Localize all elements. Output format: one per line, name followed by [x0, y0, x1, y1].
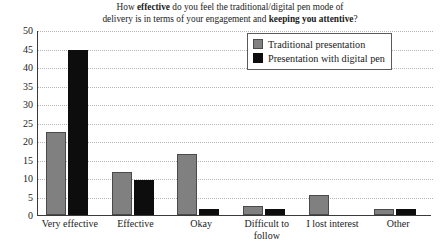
bar-group: [169, 31, 235, 215]
y-axis-tick-label: 10: [0, 174, 33, 184]
chart-title: How effective do you feel the traditiona…: [50, 2, 410, 25]
legend-swatch-traditional-icon: [253, 39, 263, 49]
bar-digital: [68, 50, 88, 215]
bar-digital: [199, 209, 219, 215]
bar-digital: [396, 209, 416, 215]
x-axis-tick-label: Effective: [103, 218, 169, 230]
x-axis-tick-label: Other: [365, 218, 431, 230]
y-axis-tick-label: 0: [0, 211, 33, 221]
bar-traditional: [112, 172, 132, 215]
legend-item-digital: Presentation with digital pen: [253, 51, 385, 65]
legend-item-traditional: Traditional presentation: [253, 37, 385, 51]
x-axis-labels: Very effectiveEffectiveOkayDifficult tof…: [37, 218, 431, 252]
title-text: delivery is in terms of your engagement …: [102, 14, 268, 24]
title-emphasis: effective: [137, 2, 170, 12]
y-axis-tick-label: 40: [0, 63, 33, 73]
y-axis-tick-label: 30: [0, 100, 33, 110]
title-text: do you feel the traditional/digital pen …: [170, 2, 344, 12]
legend-swatch-digital-icon: [253, 53, 263, 63]
y-axis-tick-label: 45: [0, 45, 33, 55]
y-axis-tick-label: 50: [0, 26, 33, 36]
bar-digital: [265, 209, 285, 215]
y-axis-tick-label: 15: [0, 156, 33, 166]
bar-digital: [134, 180, 154, 215]
chart-title-line-2: delivery is in terms of your engagement …: [50, 14, 410, 26]
bar-traditional: [374, 209, 394, 215]
x-axis-tick-label: Difficult tofollow: [234, 218, 300, 241]
bar-traditional: [243, 206, 263, 215]
x-axis-tick-label: Okay: [168, 218, 234, 230]
chart-legend: Traditional presentation Presentation wi…: [247, 33, 392, 70]
y-axis-tick-label: 5: [0, 193, 33, 203]
legend-label-digital: Presentation with digital pen: [268, 53, 385, 64]
title-text: How: [117, 2, 137, 12]
y-axis-tick-label: 25: [0, 119, 33, 129]
legend-label-traditional: Traditional presentation: [268, 39, 365, 50]
bar-chart: How effective do you feel the traditiona…: [0, 0, 448, 252]
bar-traditional: [46, 132, 66, 215]
bar-traditional: [309, 195, 329, 216]
chart-title-line-1: How effective do you feel the traditiona…: [50, 2, 410, 14]
bar-group: [38, 31, 104, 215]
title-text: ?: [353, 14, 357, 24]
x-axis-tick-label: Very effective: [37, 218, 103, 230]
x-axis-tick-label: I lost interest: [300, 218, 366, 230]
bar-traditional: [177, 154, 197, 215]
y-axis-tick-label: 35: [0, 82, 33, 92]
y-axis-labels: 05101520253035404550: [0, 24, 33, 209]
title-emphasis: keeping you attentive: [269, 14, 354, 24]
y-axis-tick-label: 20: [0, 137, 33, 147]
bar-group: [104, 31, 170, 215]
